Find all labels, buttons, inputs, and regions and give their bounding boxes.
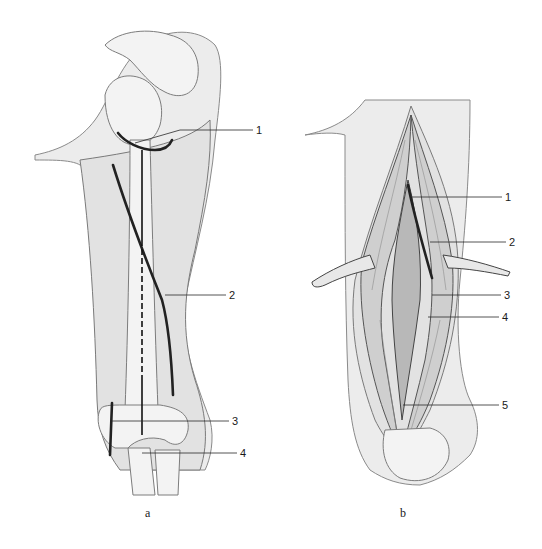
- panel-b-callout-5: 5: [502, 399, 508, 411]
- panel-a: 1 2 3 4 a: [35, 31, 262, 520]
- figure: 1 2 3 4 a 1 2 3: [0, 0, 542, 549]
- panel-a-callout-4: 4: [240, 447, 246, 459]
- panel-b: 1 2 3 4 5 b: [305, 100, 515, 520]
- panel-b-caption: b: [400, 506, 406, 520]
- panel-a-callout-2: 2: [229, 289, 235, 301]
- panel-a-callout-3: 3: [232, 415, 238, 427]
- panel-a-radius: [128, 448, 155, 495]
- panel-a-caption: a: [145, 506, 151, 520]
- panel-b-callout-2: 2: [509, 236, 515, 248]
- panel-a-ulna: [155, 450, 180, 495]
- panel-b-callout-4: 4: [502, 311, 508, 323]
- panel-b-elbow: [383, 428, 449, 481]
- panel-b-callout-3: 3: [504, 289, 510, 301]
- panel-b-callout-1: 1: [505, 191, 511, 203]
- panel-a-callout-1: 1: [256, 124, 262, 136]
- figure-canvas: 1 2 3 4 a 1 2 3: [0, 0, 542, 549]
